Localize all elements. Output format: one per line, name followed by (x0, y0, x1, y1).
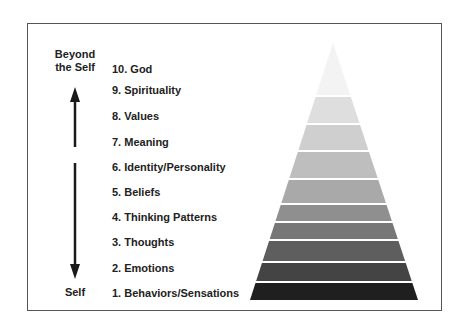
level-label-9: 9. Spirituality (112, 83, 181, 97)
pyramid-band-2 (256, 263, 412, 281)
pyramid-band-6 (281, 180, 386, 203)
level-label-3: 3. Thoughts (112, 235, 174, 249)
level-label-10: 10. God (112, 62, 152, 76)
pyramid-band-10 (316, 43, 350, 95)
level-label-4: 4. Thinking Patterns (112, 210, 217, 224)
level-label-6: 6. Identity/Personality (112, 160, 226, 174)
arrow-down-icon (70, 163, 80, 279)
pyramid-bands (250, 43, 418, 300)
pyramid-band-1 (250, 283, 418, 300)
level-label-2: 2. Emotions (112, 261, 174, 275)
pyramid-band-9 (307, 97, 359, 123)
pyramid-graphic (0, 0, 470, 330)
pyramid-band-3 (263, 241, 406, 261)
pyramid-band-7 (289, 152, 377, 178)
level-label-8: 8. Values (112, 109, 159, 123)
level-label-5: 5. Beliefs (112, 185, 160, 199)
level-label-7: 7. Meaning (112, 135, 169, 149)
pyramid-band-8 (298, 125, 368, 150)
arrow-up-icon (70, 87, 80, 147)
level-label-1: 1. Behaviors/Sensations (112, 286, 239, 300)
pyramid-band-5 (276, 205, 392, 221)
pyramid-band-4 (270, 223, 398, 239)
